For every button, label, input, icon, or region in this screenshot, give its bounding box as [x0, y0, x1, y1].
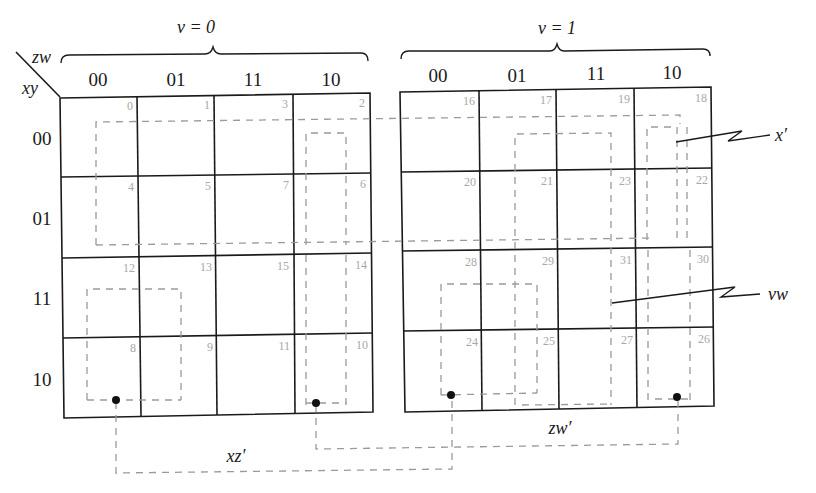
- cell-1: 1: [204, 98, 210, 112]
- cell-8: 8: [130, 341, 136, 355]
- cell-20: 20: [464, 175, 476, 189]
- cell-21: 21: [541, 174, 553, 188]
- cell-28: 28: [465, 255, 477, 269]
- cell-18: 18: [695, 91, 707, 105]
- map-v0: v = 0 00 01 11 10 00 01 11 10 0 1 3 2 4 …: [33, 17, 374, 418]
- cell-29: 29: [542, 254, 554, 268]
- map-v0-row-header-3: 10: [33, 369, 52, 390]
- cell-6: 6: [360, 177, 366, 191]
- map-v0-row-header-2: 11: [33, 288, 51, 309]
- row-axis-label: xy: [21, 78, 38, 98]
- map-v1-col-header-3: 10: [663, 62, 682, 83]
- marker-dot-cell-8: [112, 396, 120, 404]
- cell-12: 12: [123, 261, 135, 275]
- cell-25: 25: [543, 334, 555, 348]
- cell-3: 3: [282, 97, 288, 111]
- karnaugh-map-diagram: zw xy v = 0 00 01 11 10 00 01 11 10 0 1 …: [0, 0, 816, 493]
- map-v1-col-header-1: 01: [508, 65, 527, 86]
- cell-10: 10: [356, 338, 368, 352]
- cell-17: 17: [540, 93, 552, 107]
- cell-2: 2: [359, 96, 365, 110]
- cell-15: 15: [277, 259, 289, 273]
- marker-dot-cell-10: [312, 399, 320, 407]
- map-v1-grid: [400, 87, 714, 412]
- label-vw: vw: [768, 284, 788, 304]
- grouping-vw: [515, 133, 611, 405]
- cell-5: 5: [205, 179, 211, 193]
- label-zw-prime: zw′: [548, 418, 573, 438]
- column-axis-label: zw: [31, 47, 51, 67]
- cell-22: 22: [696, 173, 708, 187]
- cell-11: 11: [278, 339, 290, 353]
- label-x-prime: x′: [774, 125, 788, 145]
- cell-4: 4: [128, 180, 134, 194]
- cell-23: 23: [619, 174, 631, 188]
- cell-24: 24: [466, 335, 478, 349]
- map-v0-col-header-0: 00: [89, 69, 108, 90]
- cell-30: 30: [697, 252, 709, 266]
- cell-0: 0: [127, 99, 133, 113]
- cell-9: 9: [207, 340, 213, 354]
- marker-dot-cell-24: [447, 391, 455, 399]
- map-v0-col-header-3: 10: [322, 69, 341, 90]
- grouping-x-prime: [96, 115, 687, 245]
- label-xz-prime: xz′: [226, 446, 247, 466]
- map-v1: v = 1 00 01 11 10 16 17 19 18 20 21 23 2…: [400, 18, 714, 412]
- cell-31: 31: [620, 253, 632, 267]
- cell-26: 26: [698, 332, 710, 346]
- map-v1-col-header-0: 00: [429, 65, 448, 86]
- map-v1-title: v = 1: [538, 18, 576, 38]
- cell-13: 13: [200, 260, 212, 274]
- cell-16: 16: [463, 94, 475, 108]
- map-v0-title: v = 0: [177, 17, 215, 37]
- map-v0-grid: [60, 93, 373, 418]
- cell-19: 19: [618, 92, 630, 106]
- leader-x-prime: [676, 131, 770, 142]
- map-v1-brace: [401, 44, 710, 59]
- leader-vw: [612, 287, 760, 303]
- cell-14: 14: [355, 258, 367, 272]
- marker-dot-cell-26: [673, 393, 681, 401]
- map-v0-brace: [61, 47, 368, 63]
- map-v0-col-header-1: 01: [167, 69, 186, 90]
- map-v0-row-header-1: 01: [33, 208, 52, 229]
- map-v0-col-header-2: 11: [244, 69, 262, 90]
- map-v0-row-header-0: 00: [33, 128, 52, 149]
- cell-27: 27: [621, 333, 633, 347]
- cell-7: 7: [283, 178, 289, 192]
- map-v1-col-header-2: 11: [587, 63, 605, 84]
